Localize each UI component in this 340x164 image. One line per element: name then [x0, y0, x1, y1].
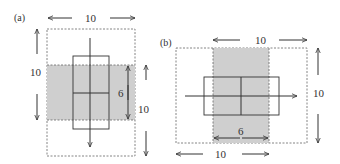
panel-a-right-dimension: 10 [138, 65, 150, 156]
panel-a-width-label: 10 [85, 12, 97, 24]
panel-b-top-dimension: 10 [213, 34, 307, 46]
panel-b-bottom-dimension: 10 [176, 148, 269, 160]
panel-a-right-label: 10 [138, 103, 150, 115]
panel-b-top-label: 10 [255, 34, 267, 46]
panel-a-band-height-label: 6 [118, 87, 124, 99]
panel-a-label: (a) [14, 12, 25, 24]
panel-b-side-dimension: 10 [313, 48, 325, 143]
diagram-canvas: (a) 10 10 6 [0, 0, 340, 164]
panel-b-side-label: 10 [313, 87, 325, 99]
panel-b-band-width-label: 6 [238, 125, 244, 137]
panel-b: (b) 10 6 10 [160, 34, 325, 160]
panel-b-bottom-label: 10 [215, 148, 227, 160]
panel-a-width-dimension: 10 [48, 12, 135, 24]
panel-a: (a) 10 10 6 [14, 12, 150, 156]
panel-b-label: (b) [160, 37, 172, 49]
panel-a-height-label: 10 [30, 66, 42, 78]
panel-a-height-dimension: 10 [30, 29, 42, 120]
